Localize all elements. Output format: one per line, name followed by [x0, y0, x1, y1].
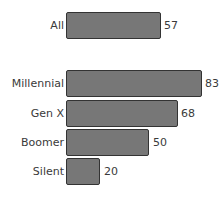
bar [66, 129, 149, 156]
value-label: 83 [205, 70, 219, 97]
bar-row-silent: Silent 20 [0, 158, 224, 185]
value-label: 68 [181, 100, 195, 127]
bar-row-all: All 57 [0, 12, 224, 39]
value-label: 50 [153, 129, 167, 156]
bar [66, 70, 202, 97]
bar [66, 12, 161, 39]
category-label: All [50, 12, 64, 39]
bar [66, 100, 178, 127]
bar-row-boomer: Boomer 50 [0, 129, 224, 156]
category-label: Silent [33, 158, 64, 185]
category-label: Boomer [21, 129, 64, 156]
value-label: 57 [164, 12, 178, 39]
category-label: Millennial [12, 70, 64, 97]
category-label: Gen X [31, 100, 64, 127]
value-label: 20 [104, 158, 118, 185]
generation-bar-chart: All 57 Millennial 83 Gen X 68 Boomer 50 … [0, 0, 224, 201]
bar [66, 158, 100, 185]
bar-row-gen-x: Gen X 68 [0, 100, 224, 127]
bar-row-millennial: Millennial 83 [0, 70, 224, 97]
